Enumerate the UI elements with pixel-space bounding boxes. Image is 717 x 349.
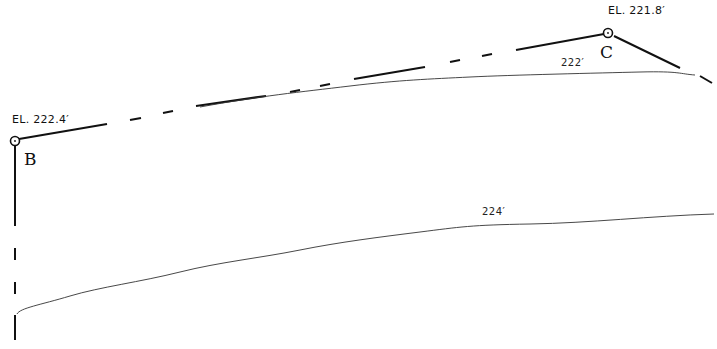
- boundary-line-b-c: [19, 34, 604, 139]
- contour-label-224: 224′: [482, 207, 505, 217]
- contour-label-222: 222′: [561, 58, 584, 68]
- contour-line-224: [17, 214, 714, 314]
- point-c-elevation-label: EL. 221.8′: [608, 5, 665, 16]
- boundary-line-c-east: [614, 36, 712, 83]
- contour-line-222: [200, 72, 695, 107]
- point-c-label: C: [600, 44, 613, 61]
- point-b-elevation-label: EL. 222.4′: [12, 114, 69, 125]
- point-b-label: B: [24, 151, 37, 168]
- site-plan-diagram: EL. 222.4′ B EL. 221.8′ C 222′ 224′: [0, 0, 717, 349]
